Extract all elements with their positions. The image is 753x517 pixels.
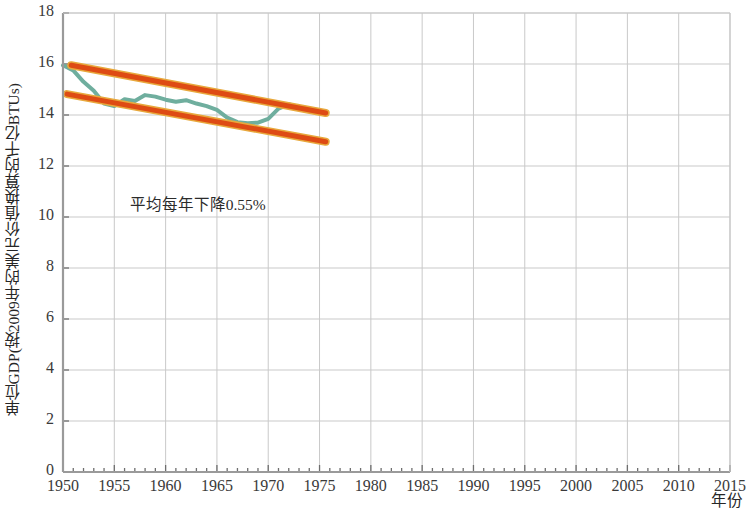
chart-container: 024681012141618 195019551960196519701975…	[0, 0, 753, 517]
x-tick-label: 1965	[193, 477, 241, 495]
x-axis-title-text: 年份	[711, 488, 743, 510]
y-tick-label: 4	[0, 359, 54, 377]
x-tick-label: 1985	[398, 477, 446, 495]
x-tick-label: 1970	[244, 477, 292, 495]
y-tick-label: 18	[0, 2, 54, 20]
y-tick-label: 14	[0, 104, 54, 122]
data-series	[63, 65, 326, 141]
x-tick-label: 2005	[603, 477, 651, 495]
y-tick-label: 10	[0, 206, 54, 224]
y-tick-label: 8	[0, 257, 54, 275]
x-tick-label: 2000	[552, 477, 600, 495]
x-tick-label: 1960	[142, 477, 190, 495]
y-tick-label: 2	[0, 410, 54, 428]
x-tick-label: 1995	[501, 477, 549, 495]
x-tick-label: 2010	[655, 477, 703, 495]
y-tick-label: 12	[0, 155, 54, 173]
x-tick-label: 1975	[296, 477, 344, 495]
x-tick-label: 1950	[39, 477, 87, 495]
chart-plot-area	[0, 0, 753, 517]
x-tick-label: 1955	[90, 477, 138, 495]
x-tick-label: 1980	[347, 477, 395, 495]
chart-annotation: 平均每年下降0.55%	[130, 192, 266, 214]
x-tick-label: 1990	[449, 477, 497, 495]
y-tick-label: 16	[0, 53, 54, 71]
y-tick-label: 6	[0, 308, 54, 326]
